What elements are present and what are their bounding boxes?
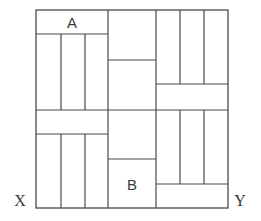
- label-a: A: [67, 14, 77, 31]
- diagram-drawing: A B X Y: [0, 0, 261, 221]
- tiling-diagram: A B X Y: [0, 0, 261, 221]
- label-x: X: [14, 192, 26, 209]
- label-b: B: [127, 176, 137, 193]
- label-y: Y: [234, 192, 246, 209]
